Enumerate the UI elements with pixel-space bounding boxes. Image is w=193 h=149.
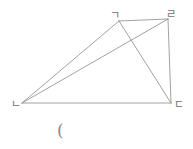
edge-n-g [22, 21, 119, 103]
vertex-label-g: ㄱ [110, 10, 120, 21]
figure-caption-parenthesis: ( [57, 122, 64, 139]
vertex-label-n: ㄴ [11, 99, 21, 110]
vertex-label-d: ㄷ [174, 99, 184, 110]
edge-r-d [168, 19, 171, 103]
geometry-figure-canvas: ㄱ ㄹ ㄷ ㄴ ( [0, 0, 193, 149]
vertex-label-r: ㄹ [166, 9, 176, 20]
diagonal-g-d [119, 21, 171, 103]
diagonal-n-r [22, 19, 168, 103]
edge-g-r [119, 19, 168, 21]
figure-line-art [0, 0, 193, 149]
